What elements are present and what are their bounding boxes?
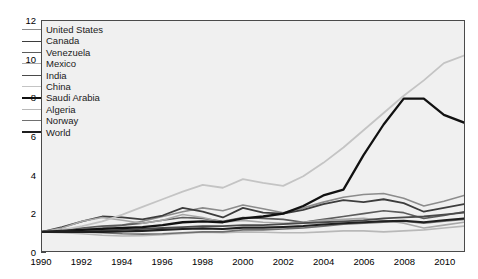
legend-item[interactable]: Mexico — [22, 58, 103, 69]
x-tick-label: 2002 — [263, 256, 303, 267]
plot-area — [41, 20, 465, 252]
legend-swatch-line-icon — [22, 29, 41, 30]
legend-item-label: China — [46, 81, 71, 92]
legend-item[interactable]: World — [22, 127, 103, 138]
legend-item[interactable]: India — [22, 70, 103, 81]
legend-swatch-line-icon — [22, 41, 41, 42]
legend-item[interactable]: China — [22, 81, 103, 92]
legend-item[interactable]: Algeria — [22, 104, 103, 115]
y-tick-mark — [41, 252, 46, 253]
x-tick-label: 2010 — [425, 256, 465, 267]
legend-item-label: Norway — [46, 115, 78, 126]
legend-item[interactable]: Norway — [22, 115, 103, 126]
legend-item-label: India — [46, 70, 67, 81]
x-tick-label: 1994 — [102, 256, 142, 267]
legend-swatch-line-icon — [22, 120, 41, 121]
legend-item-label: Venezuela — [46, 47, 90, 58]
x-tick-label: 1998 — [183, 256, 223, 267]
legend-item-label: Mexico — [46, 58, 76, 69]
legend-item-label: Saudi Arabia — [46, 92, 100, 103]
series-lines — [42, 21, 464, 251]
x-tick-label: 2006 — [344, 256, 384, 267]
legend-swatch-line-icon — [22, 109, 41, 110]
legend-item[interactable]: Canada — [22, 35, 103, 46]
legend-item[interactable]: United States — [22, 24, 103, 35]
legend-item-label: Algeria — [46, 104, 76, 115]
legend-swatch-line-icon — [22, 131, 41, 133]
legend-item-label: World — [46, 127, 71, 138]
legend-swatch-line-icon — [22, 86, 41, 87]
chart-figure: Index (1990=1.0) 024681012 1990199219941… — [0, 0, 478, 279]
x-tick-label: 1992 — [61, 256, 101, 267]
x-tick-label: 2004 — [304, 256, 344, 267]
chart-legend: United StatesCanadaVenezuelaMexicoIndiaC… — [22, 24, 103, 138]
legend-item[interactable]: Venezuela — [22, 47, 103, 58]
legend-swatch-line-icon — [22, 52, 41, 53]
legend-item-label: Canada — [46, 35, 79, 46]
legend-item[interactable]: Saudi Arabia — [22, 92, 103, 103]
legend-swatch-line-icon — [22, 63, 41, 64]
x-tick-label: 1996 — [142, 256, 182, 267]
x-tick-label: 2008 — [384, 256, 424, 267]
x-tick-label: 2000 — [223, 256, 263, 267]
legend-swatch-line-icon — [22, 75, 41, 76]
legend-swatch-line-icon — [22, 97, 41, 99]
series-line — [42, 56, 464, 232]
y-tick-label: 2 — [6, 208, 36, 219]
y-tick-label: 4 — [6, 169, 36, 180]
legend-item-label: United States — [46, 24, 103, 35]
x-tick-label: 1990 — [21, 256, 61, 267]
